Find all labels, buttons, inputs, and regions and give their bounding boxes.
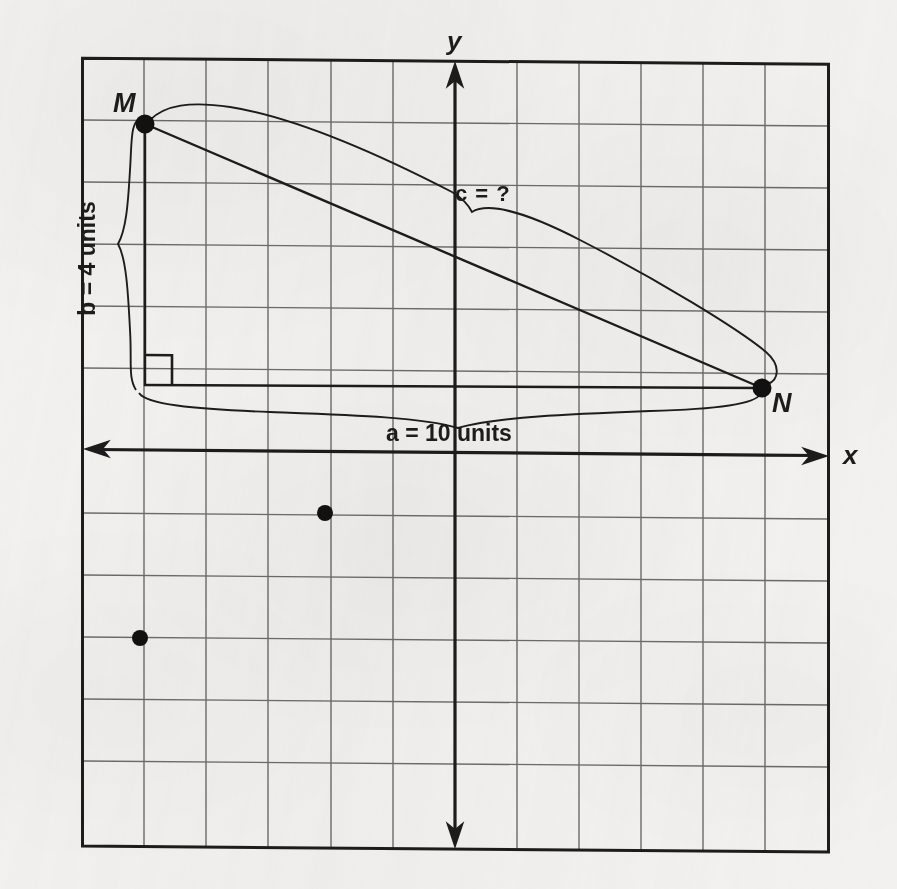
axis-label-x: x	[843, 440, 857, 471]
axis-label-y: y	[447, 26, 461, 57]
measure-label-c: c = ?	[455, 181, 511, 207]
point-label-M: M	[113, 88, 136, 119]
measure-label-a: a = 10 units	[386, 420, 512, 447]
point-4	[132, 630, 148, 646]
point-N	[753, 379, 772, 398]
measure-label-b: b = 4 units	[74, 169, 101, 349]
point-3	[317, 505, 333, 521]
point-label-N: N	[772, 388, 792, 419]
point-M	[136, 115, 155, 134]
